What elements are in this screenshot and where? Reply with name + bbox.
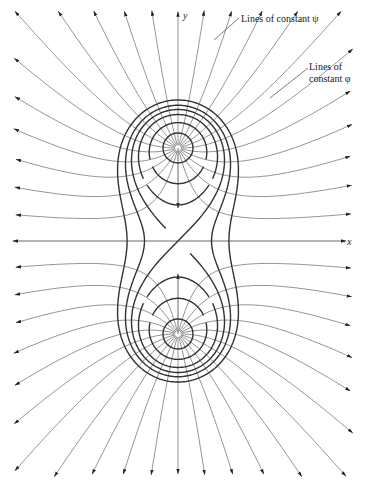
streamline xyxy=(54,336,175,477)
streamline xyxy=(152,11,177,145)
flow-net-figure: y x Lines of constant ψ Lines of constan… xyxy=(0,0,366,482)
y-axis-label: y xyxy=(183,10,187,22)
streamline xyxy=(16,263,177,331)
streamline xyxy=(15,285,177,331)
streamline xyxy=(180,150,350,177)
streamline xyxy=(16,305,176,332)
streamline xyxy=(181,336,302,477)
streamline xyxy=(179,151,351,219)
streamline xyxy=(58,11,175,146)
x-axis-label: x xyxy=(347,236,351,248)
streamline xyxy=(179,337,205,475)
streamline xyxy=(179,11,204,145)
streamline xyxy=(15,335,175,471)
phi-lines-label-1: Lines of xyxy=(309,61,342,73)
psi-lines-label: Lines of constant ψ xyxy=(241,13,319,25)
streamline xyxy=(16,151,177,219)
psi-leader-line xyxy=(214,18,239,40)
phi-leader-line xyxy=(270,68,308,98)
streamline xyxy=(181,11,298,146)
streamline xyxy=(15,11,175,147)
streamline xyxy=(181,330,350,391)
streamline xyxy=(15,151,177,197)
streamline xyxy=(14,58,175,148)
streamline xyxy=(179,263,351,331)
streamline xyxy=(181,334,353,433)
streamline xyxy=(151,337,177,475)
streamline xyxy=(14,334,175,424)
phi-lines-label-2: constant φ xyxy=(309,73,351,85)
streamline xyxy=(181,91,350,152)
streamline xyxy=(124,11,176,145)
streamline xyxy=(180,305,350,332)
streamline xyxy=(16,150,176,177)
